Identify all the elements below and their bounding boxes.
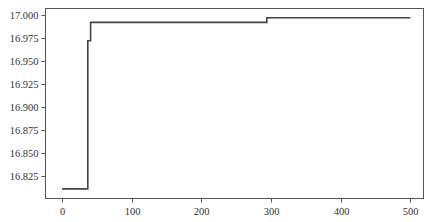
- series-layer: [62, 18, 410, 189]
- y-tick-label: 17.000: [10, 10, 39, 21]
- line-chart: 16.82516.85016.87516.90016.92516.95016.9…: [0, 0, 429, 222]
- y-tick-label: 16.975: [10, 33, 39, 44]
- series-line: [62, 18, 410, 189]
- plot-frame: [46, 9, 424, 199]
- x-tick-label: 100: [125, 206, 141, 217]
- x-tick-label: 500: [403, 206, 419, 217]
- y-axis: 16.82516.85016.87516.90016.92516.95016.9…: [10, 10, 46, 182]
- x-tick-label: 300: [264, 206, 280, 217]
- y-tick-label: 16.850: [10, 148, 39, 159]
- x-tick-label: 400: [334, 206, 350, 217]
- y-tick-label: 16.825: [10, 171, 39, 182]
- y-tick-label: 16.950: [10, 56, 39, 67]
- x-tick-label: 0: [60, 206, 65, 217]
- y-tick-label: 16.925: [10, 79, 39, 90]
- y-tick-label: 16.875: [10, 125, 39, 136]
- x-axis: 0100200300400500: [60, 199, 419, 217]
- x-tick-label: 200: [194, 206, 210, 217]
- y-tick-label: 16.900: [10, 102, 39, 113]
